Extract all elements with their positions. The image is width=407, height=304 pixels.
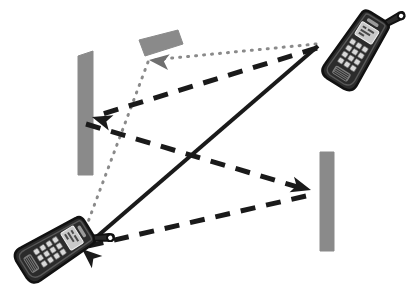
left-vertical-wall <box>78 51 93 175</box>
right-vertical-wall <box>320 152 334 251</box>
propagation-diagram <box>0 0 407 304</box>
diagram-canvas <box>0 0 407 304</box>
